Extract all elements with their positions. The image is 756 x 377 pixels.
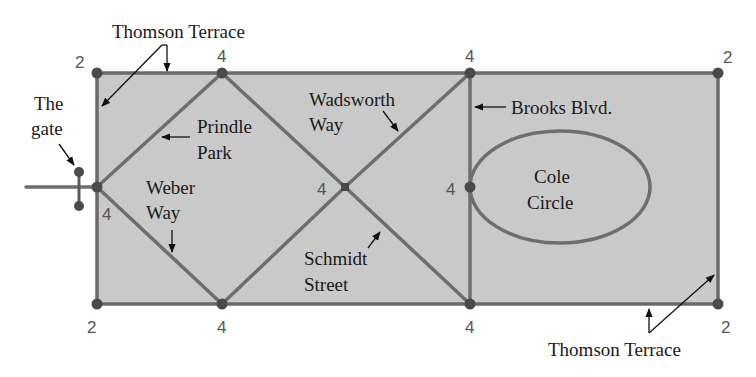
vertex-mid-left <box>92 182 103 193</box>
brooks-blvd-label: Brooks Blvd. <box>511 97 612 118</box>
degree-top-2: 4 <box>217 47 226 66</box>
degree-bottom-3: 4 <box>465 318 474 337</box>
schmidt-street-label-line2: Street <box>304 274 349 295</box>
degree-brooks-mid: 4 <box>446 180 455 199</box>
wadsworth-way-label-line2: Way <box>309 114 344 135</box>
weber-way-label-line1: Weber <box>146 177 196 198</box>
vertex-top-3 <box>465 68 476 79</box>
degree-mid-left: 4 <box>102 205 111 224</box>
wadsworth-way-label-line1: Wadsworth <box>309 89 396 110</box>
vertex-top-2 <box>217 68 228 79</box>
gate-arrow <box>59 144 74 165</box>
gate-post-bottom <box>74 201 84 211</box>
cole-circle-label-line1: Cole <box>534 166 570 187</box>
vertex-bottom-2 <box>217 299 228 310</box>
degree-bottom-right: 2 <box>721 318 730 337</box>
vertex-top-right <box>713 68 724 79</box>
degree-top-left: 2 <box>75 53 84 72</box>
weber-way-label-line2: Way <box>146 202 181 223</box>
street-map-diagram: 2 4 4 2 4 4 4 2 4 4 2 Thomson Terrace Th… <box>0 0 756 377</box>
gate-post-top <box>74 167 84 177</box>
thomson-terrace-bottom-label: Thomson Terrace <box>548 339 681 360</box>
vertex-bottom-right <box>713 299 724 310</box>
cole-circle-label-line2: Circle <box>527 192 573 213</box>
vertex-bottom-left <box>92 299 103 310</box>
prindle-park-label-line1: Prindle <box>197 116 252 137</box>
vertex-top-left <box>92 68 103 79</box>
vertex-brooks-mid <box>465 182 476 193</box>
prindle-park-label-line2: Park <box>197 142 232 163</box>
degree-bottom-left: 2 <box>87 318 96 337</box>
degree-bottom-2: 4 <box>217 318 226 337</box>
gate-label-line1: The <box>34 93 64 114</box>
degree-center: 4 <box>317 180 326 199</box>
vertex-bottom-3 <box>465 299 476 310</box>
vertex-center <box>341 183 349 191</box>
schmidt-street-label-line1: Schmidt <box>304 248 368 269</box>
gate-label-line2: gate <box>31 118 63 139</box>
thomson-terrace-top-label: Thomson Terrace <box>112 21 245 42</box>
degree-top-3: 4 <box>465 47 474 66</box>
degree-top-right: 2 <box>723 48 732 67</box>
